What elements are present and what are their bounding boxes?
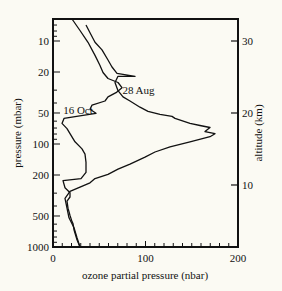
y2-axis-title: altitude (km) [252,104,265,161]
y-tick-label: 50 [38,107,50,119]
x-tick-label: 100 [137,252,154,264]
x-tick-label: 200 [230,252,247,264]
y-tick-label: 100 [33,138,50,150]
x-axis-title: ozone partial pressure (nbar) [82,269,208,282]
y-tick-label: 10 [38,35,50,47]
y-tick-label: 200 [33,169,50,181]
x-tick-label: 0 [50,252,56,264]
ozone-profile-chart: 01002001020501002005001000302010ozone pa… [0,0,282,291]
series-line-16-oct [62,19,122,247]
y-tick-label: 1000 [27,241,50,253]
y2-tick-label: 10 [242,179,254,191]
annotation-16-oct: 16 Oct [63,104,93,116]
y2-tick-label: 30 [242,35,254,47]
annotation-28-aug: 28 Aug [122,84,155,96]
axis-labels: 01002001020501002005001000302010ozone pa… [11,35,265,282]
y-tick-label: 500 [33,210,50,222]
y-tick-label: 20 [38,66,50,78]
y-axis-title: pressure (mbar) [11,98,24,168]
series-line-28-aug [65,25,215,247]
data-series [62,19,215,247]
